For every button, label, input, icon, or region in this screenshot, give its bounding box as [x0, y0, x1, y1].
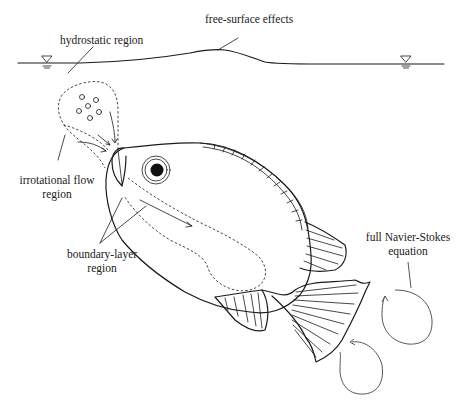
label-boundary-line1: boundary-layer — [57, 247, 147, 261]
water-level-marker-right — [401, 56, 411, 68]
label-navier-stokes: full Navier-Stokes equation — [358, 230, 458, 258]
label-boundary-line2: region — [57, 261, 147, 275]
label-navier-line2: equation — [358, 244, 458, 258]
irrotational-region — [58, 82, 118, 168]
label-irrotational-line2: region — [12, 187, 102, 201]
vortices — [340, 262, 432, 394]
hydrostatic-leader — [68, 47, 93, 73]
free-surface — [18, 50, 444, 64]
label-irrotational-line1: irrotational flow — [12, 173, 102, 187]
label-navier-line1: full Navier-Stokes — [358, 230, 458, 244]
label-boundary-layer: boundary-layer region — [57, 247, 147, 275]
label-free-surface-effects: free-surface effects — [205, 12, 293, 26]
label-hydrostatic-region: hydrostatic region — [60, 33, 143, 47]
water-level-marker-left — [42, 56, 52, 68]
free-surface-leader — [218, 38, 238, 50]
label-irrotational-flow: irrotational flow region — [12, 173, 102, 201]
diagram-canvas — [0, 0, 458, 412]
flow-regions-diagram: hydrostatic region free-surface effects … — [0, 0, 458, 412]
